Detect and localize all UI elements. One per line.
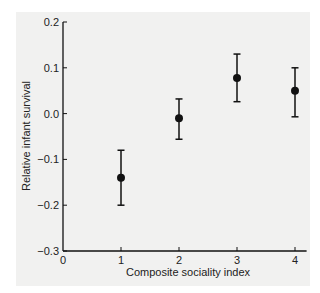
y-axis-title: Relative infant survival	[20, 81, 32, 191]
x-tick-label: 4	[292, 254, 298, 266]
data-point	[291, 68, 299, 117]
data-point	[175, 99, 183, 139]
y-tick-label: −0.2	[37, 199, 59, 211]
chart: 0.20.10.0−0.1−0.2−0.301234 Composite soc…	[0, 0, 320, 293]
y-tick-label: 0.1	[44, 62, 59, 74]
data-point	[233, 54, 241, 102]
y-tick-label: 0.0	[44, 108, 59, 120]
y-tick-label: 0.2	[44, 16, 59, 28]
point-marker	[291, 87, 299, 95]
y-tick-label: −0.3	[37, 245, 59, 257]
x-tick-label: 2	[176, 254, 182, 266]
x-tick-label: 0	[60, 254, 66, 266]
point-marker	[175, 114, 183, 122]
x-tick-label: 3	[234, 254, 240, 266]
point-marker	[117, 174, 125, 182]
x-tick-label: 1	[118, 254, 124, 266]
x-axis-title: Composite sociality index	[126, 266, 251, 278]
point-marker	[233, 74, 241, 82]
data-point	[117, 150, 125, 205]
data-points	[117, 54, 299, 205]
y-tick-label: −0.1	[37, 153, 59, 165]
axes: 0.20.10.0−0.1−0.2−0.301234	[37, 16, 306, 266]
